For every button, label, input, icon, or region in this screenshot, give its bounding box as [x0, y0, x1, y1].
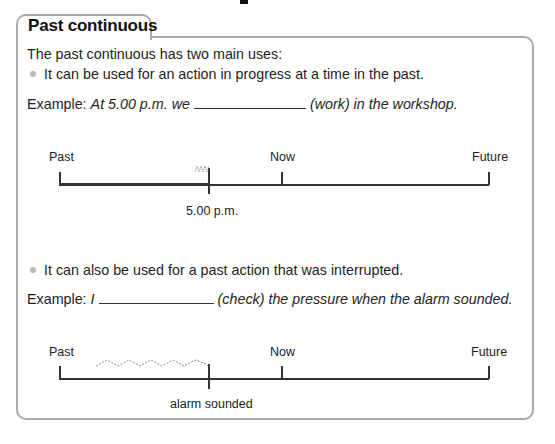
section-title: Past continuous — [28, 16, 157, 36]
answer-blank-1[interactable] — [194, 98, 306, 109]
example-2: Example: I(check) the pressure when the … — [27, 291, 512, 307]
use-2-bullet: It can also be used for a past action th… — [27, 262, 403, 278]
zigzag-icon — [195, 165, 209, 173]
zigzag-icon — [96, 358, 210, 368]
bullet-icon — [30, 71, 36, 77]
grammar-box — [16, 36, 534, 420]
bullet-icon — [30, 267, 36, 273]
example-1: Example: At 5.00 p.m. we(work) in the wo… — [27, 96, 458, 112]
answer-blank-2[interactable] — [99, 293, 214, 304]
use-1-bullet: It can be used for an action in progress… — [27, 66, 424, 82]
heading-fragment — [240, 0, 248, 4]
intro-text: The past continuous has two main uses: — [27, 46, 282, 62]
